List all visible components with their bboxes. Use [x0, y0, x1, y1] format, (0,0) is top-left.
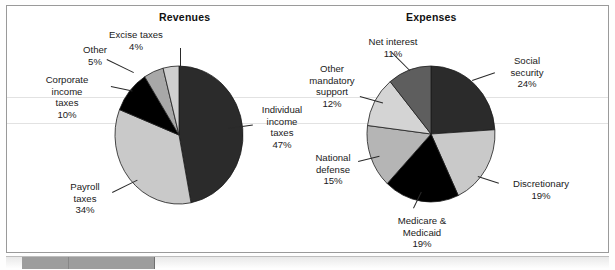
pie-revenues-svg: [111, 64, 251, 209]
label-medicare-l1: Medicare &: [382, 215, 462, 227]
label-excise-taxes-name: Excise taxes: [88, 29, 184, 41]
label-social-security-value: 24%: [496, 78, 558, 90]
label-other-mandatory-l2: mandatory: [302, 75, 362, 87]
label-corporate-l2: income: [25, 86, 109, 98]
label-other-mandatory-support: Other mandatory support 12%: [302, 63, 362, 109]
label-discretionary: Discretionary 19%: [499, 178, 583, 201]
label-individual-value: 47%: [247, 139, 317, 151]
label-individual-l3: taxes: [247, 127, 317, 139]
pie-slice[interactable]: [179, 66, 243, 203]
label-payroll-l1: Payroll: [56, 181, 114, 193]
pie-expenses-svg: [363, 64, 503, 206]
label-other-revenue-value: 5%: [66, 56, 124, 68]
label-social-security-l2: security: [496, 67, 558, 79]
label-individual-l2: income: [247, 116, 317, 128]
figure-page: Revenues Expenses Excise taxes 4% Other …: [0, 0, 615, 270]
label-national-defense-l2: defense: [305, 164, 361, 176]
label-corporate-l3: taxes: [25, 97, 109, 109]
label-discretionary-value: 19%: [499, 190, 583, 202]
label-individual-income-taxes: Individual income taxes 47%: [247, 104, 317, 150]
label-medicare-l2: Medicaid: [382, 227, 462, 239]
label-national-defense-value: 15%: [305, 175, 361, 187]
label-other-mandatory-value: 12%: [302, 98, 362, 110]
label-medicare-value: 19%: [382, 238, 462, 250]
label-net-interest-name: Net interest: [355, 36, 431, 48]
label-net-interest: Net interest 11%: [355, 36, 431, 59]
label-national-defense-l1: National: [305, 152, 361, 164]
label-payroll-l2: taxes: [56, 193, 114, 205]
label-medicare-medicaid: Medicare & Medicaid 19%: [382, 215, 462, 250]
pie-chart-revenues[interactable]: [111, 64, 251, 209]
label-national-defense: National defense 15%: [305, 152, 361, 187]
page-bottom-gray-block: [22, 257, 155, 269]
label-other-revenue-name: Other: [66, 44, 124, 56]
label-corporate-income-taxes: Corporate income taxes 10%: [25, 74, 109, 120]
pie-chart-expenses[interactable]: [363, 64, 503, 206]
chart-title-revenues: Revenues: [159, 11, 210, 23]
chart-title-expenses: Expenses: [406, 11, 457, 23]
label-social-security: Social security 24%: [496, 55, 558, 90]
label-corporate-l1: Corporate: [25, 74, 109, 86]
label-discretionary-name: Discretionary: [499, 178, 583, 190]
label-other-mandatory-l1: Other: [302, 63, 362, 75]
label-payroll-taxes: Payroll taxes 34%: [56, 181, 114, 216]
label-corporate-value: 10%: [25, 109, 109, 121]
label-social-security-l1: Social: [496, 55, 558, 67]
label-payroll-value: 34%: [56, 204, 114, 216]
label-other-mandatory-l3: support: [302, 86, 362, 98]
label-other-revenue: Other 5%: [66, 44, 124, 67]
label-net-interest-value: 11%: [355, 48, 431, 60]
